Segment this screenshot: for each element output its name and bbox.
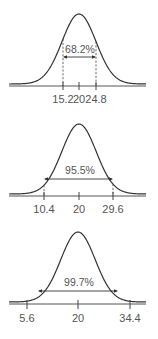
- tick-label-high: 34.4: [119, 312, 140, 324]
- panel-95-percent: 95.5% 10.4 20 29.6: [9, 124, 146, 215]
- arrow-left-head: [63, 55, 67, 59]
- percentage-label: 95.5%: [65, 164, 95, 176]
- panel-68-percent: 68.2% 15.2 20 24.8: [9, 14, 146, 105]
- tick-label-low: 10.4: [33, 203, 54, 215]
- arrow-left-head: [44, 177, 48, 181]
- tick-label-mean: 20: [72, 312, 84, 324]
- percentage-label: 68.2%: [65, 43, 95, 55]
- normal-distribution-diagram: 68.2% 15.2 20 24.8 95.5% 10.4 20 29.6 99…: [0, 0, 158, 339]
- diagram-canvas: 68.2% 15.2 20 24.8 95.5% 10.4 20 29.6 99…: [0, 0, 158, 339]
- arrow-left-head: [38, 289, 42, 293]
- bell-curve: [9, 232, 146, 302]
- tick-label-high: 29.6: [102, 203, 123, 215]
- interval-arrow: [38, 289, 118, 293]
- bell-curve: [9, 124, 146, 194]
- tick-label-mean: 20: [73, 203, 85, 215]
- tick-label-high: 24.8: [85, 93, 106, 105]
- tick-label-low: 5.6: [19, 312, 34, 324]
- percentage-label: 99.7%: [64, 276, 94, 288]
- interval-arrow: [44, 177, 113, 181]
- arrow-right-head: [114, 289, 118, 293]
- panel-99-percent: 99.7% 5.6 20 34.4: [9, 232, 146, 324]
- tick-label-low: 15.2: [52, 93, 73, 105]
- arrow-right-head: [92, 55, 96, 59]
- interval-arrow: [63, 55, 96, 59]
- tick-label-mean: 20: [73, 93, 85, 105]
- arrow-right-head: [109, 177, 113, 181]
